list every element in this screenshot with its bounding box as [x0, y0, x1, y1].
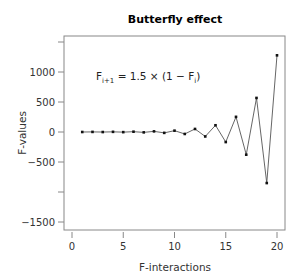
y-tick-label: 1000: [30, 67, 55, 78]
x-tick-label: 20: [271, 241, 284, 252]
chart: Butterfly effect −1500−50005001000 05101…: [0, 0, 301, 276]
y-tick-label: −500: [28, 157, 55, 168]
y-tick-label: 500: [36, 97, 55, 108]
data-point-marker: [81, 131, 84, 134]
data-point-marker: [265, 182, 268, 185]
data-point-marker: [194, 128, 197, 131]
data-point-marker: [112, 131, 115, 134]
x-tick-label: 5: [120, 241, 126, 252]
data-point-marker: [91, 131, 94, 134]
data-point-marker: [255, 97, 258, 100]
formula-annotation: Fi+1 = 1.5 × (1 − Fi): [96, 70, 200, 85]
data-point-marker: [245, 153, 248, 156]
data-point-marker: [132, 130, 135, 133]
x-axis-label: F-interactions: [139, 261, 211, 273]
chart-title: Butterfly effect: [128, 13, 222, 26]
data-point-marker: [204, 135, 207, 138]
data-point-marker: [142, 131, 145, 134]
x-tick-label: 0: [69, 241, 75, 252]
data-point-marker: [183, 133, 186, 136]
x-tick-label: 10: [168, 241, 181, 252]
x-axis: 05101520: [69, 232, 284, 252]
data-point-marker: [101, 131, 104, 134]
data-point-marker: [224, 141, 227, 144]
y-tick-label: 0: [49, 127, 55, 138]
data-point-marker: [153, 130, 156, 133]
y-axis-label: F-values: [16, 111, 28, 155]
data-point-marker: [276, 54, 279, 57]
data-point-marker: [235, 116, 238, 119]
data-point-marker: [163, 132, 166, 135]
data-point-marker: [122, 131, 125, 134]
plot-area: [64, 36, 285, 230]
data-point-marker: [173, 129, 176, 132]
data-point-marker: [214, 124, 217, 127]
y-tick-label: −1500: [21, 217, 55, 228]
x-tick-label: 15: [219, 241, 232, 252]
